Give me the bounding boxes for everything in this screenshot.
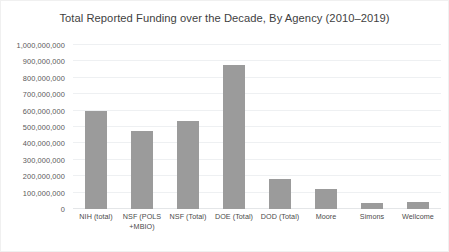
bar	[407, 202, 429, 209]
bar	[177, 121, 199, 209]
y-axis-tick-label: 800,000,000	[23, 73, 65, 82]
y-axis-tick-label: 600,000,000	[23, 106, 65, 115]
bar	[223, 65, 245, 209]
x-axis-tick-label: Wellcome	[395, 212, 441, 222]
bar	[269, 179, 291, 209]
y-axis-tick-label: 100,000,000	[23, 188, 65, 197]
bar	[361, 203, 383, 209]
x-axis-tick-label: NIH (total)	[73, 212, 119, 222]
y-axis: 0100,000,000200,000,000300,000,000400,00…	[1, 45, 69, 209]
x-axis-tick-label: NSF (Total)	[165, 212, 211, 222]
y-axis-tick-label: 900,000,000	[23, 57, 65, 66]
y-axis-tick-label: 0	[61, 205, 65, 214]
x-axis: NIH (total)NSF (POLS +MBIO)NSF (Total)DO…	[73, 212, 441, 246]
x-axis-tick-label: NSF (POLS +MBIO)	[119, 212, 165, 231]
plot-area	[73, 45, 441, 209]
y-axis-tick-label: 1,000,000,000	[16, 41, 65, 50]
x-axis-tick-label: Simons	[349, 212, 395, 222]
bar	[85, 111, 107, 209]
y-axis-tick-label: 700,000,000	[23, 90, 65, 99]
chart-container: Total Reported Funding over the Decade, …	[0, 0, 449, 252]
bar	[131, 131, 153, 209]
x-axis-tick-label: DOE (Total)	[211, 212, 257, 222]
x-axis-tick-label: DOD (Total)	[257, 212, 303, 222]
y-axis-tick-label: 300,000,000	[23, 155, 65, 164]
bar-series	[73, 45, 441, 209]
y-axis-tick-label: 400,000,000	[23, 139, 65, 148]
x-axis-tick-label: Moore	[303, 212, 349, 222]
y-axis-tick-label: 500,000,000	[23, 123, 65, 132]
chart-title: Total Reported Funding over the Decade, …	[1, 12, 448, 24]
bar	[315, 189, 337, 209]
y-axis-tick-label: 200,000,000	[23, 172, 65, 181]
